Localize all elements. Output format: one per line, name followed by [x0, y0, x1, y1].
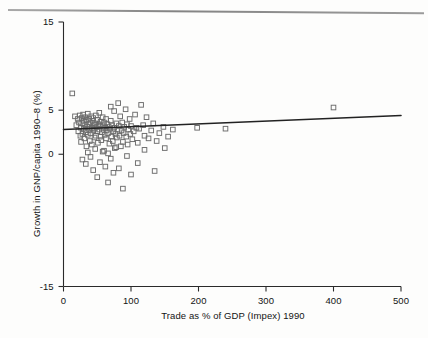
x-tick-label: 300	[251, 295, 281, 306]
data-point-markers	[70, 91, 336, 191]
x-tick-label: 500	[386, 295, 416, 306]
y-tick-label: 5	[28, 104, 54, 115]
scatter-plot-figure: Growth in GNP/capita 1990–8 (%) Trade as…	[0, 0, 428, 338]
y-tick-label: 15	[28, 16, 54, 27]
y-tick-label: 0	[28, 148, 54, 159]
x-axis-ticks	[64, 287, 402, 292]
x-tick-label: 0	[49, 295, 79, 306]
plot-canvas	[0, 0, 428, 338]
x-tick-label: 100	[116, 295, 146, 306]
axis-lines	[64, 22, 402, 287]
x-tick-label: 400	[319, 295, 349, 306]
x-tick-label: 200	[184, 295, 214, 306]
y-tick-label: -15	[28, 281, 54, 292]
y-axis-title: Growth in GNP/capita 1990–8 (%)	[31, 74, 42, 254]
y-axis-ticks	[59, 22, 64, 287]
x-axis-title: Trade as % of GDP (Impex) 1990	[63, 310, 403, 321]
